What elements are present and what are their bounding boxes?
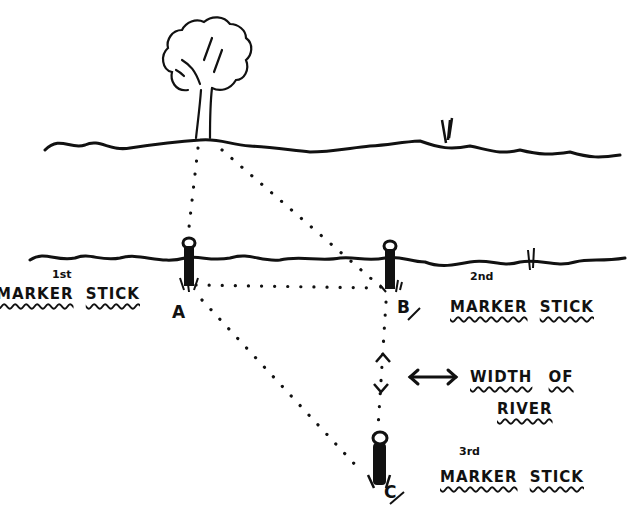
point-c-label: C (384, 482, 397, 502)
point-a-label: A (172, 302, 186, 322)
marker1-word1: MARKER (0, 285, 74, 303)
marker2-label: MARKER STICK (450, 298, 594, 316)
grass-tuft-icon (528, 248, 534, 270)
far-river-bank (45, 140, 620, 157)
sightline-a-to-b (196, 285, 378, 288)
marker2-word1: MARKER (450, 298, 528, 316)
width-word: WIDTH (470, 368, 532, 386)
marker3-word1: MARKER (440, 468, 518, 486)
sightline-tree-to-b (222, 150, 382, 288)
marker-stick-a-icon (180, 238, 198, 292)
marker2-word2: STICK (540, 298, 594, 316)
marker2-ordinal: 2nd (470, 270, 493, 283)
tree-icon (163, 17, 251, 138)
width-label-line1: WIDTH OF (470, 368, 574, 386)
grass-tuft-icon (442, 118, 452, 143)
double-arrow-icon (410, 370, 456, 384)
marker1-word2: STICK (86, 285, 140, 303)
width-label-line2: RIVER (497, 400, 553, 418)
sight-lines (188, 148, 386, 470)
marker3-ordinal: 3rd (459, 445, 480, 458)
diagram-artwork (0, 0, 635, 524)
marker3-word2: STICK (530, 468, 584, 486)
sightline-a-to-c (202, 300, 360, 470)
marker-stick-b-icon (380, 241, 402, 292)
sightline-b-to-c (378, 302, 386, 428)
of-word: OF (549, 368, 574, 386)
chevron-down-icon (374, 384, 388, 392)
near-river-bank (30, 256, 625, 266)
marker1-ordinal: 1st (52, 268, 71, 281)
marker1-label: MARKER STICK (0, 285, 140, 303)
river-width-diagram: A B C 1st MARKER STICK 2nd MARKER STICK … (0, 0, 635, 524)
marker3-label: MARKER STICK (440, 468, 584, 486)
chevron-up-icon (376, 354, 390, 362)
point-b-label: B (397, 297, 411, 317)
river-word: RIVER (497, 400, 553, 418)
marker-stick-c-icon (368, 432, 390, 488)
sightline-tree-to-a (188, 148, 198, 236)
